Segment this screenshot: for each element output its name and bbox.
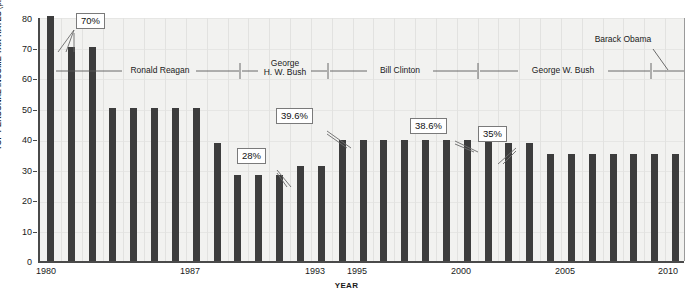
y-tick-label-50: 50 (10, 105, 32, 115)
figure: TOP PERSONAL INCOME TAX RATES (percent) … (0, 0, 693, 305)
bar-2003 (526, 143, 533, 261)
y-tick-mark-10 (33, 232, 37, 233)
x-tick-label-2005: 2005 (545, 266, 585, 276)
gridline-v-1985 (144, 18, 145, 261)
y-tick-mark-70 (33, 49, 37, 50)
x-tick-label-2010: 2010 (648, 266, 688, 276)
bar-1980 (47, 16, 54, 261)
callout-39-6-percent: 39.6% (276, 108, 313, 124)
gridline-v-1997 (394, 18, 395, 261)
gridline-v-1991 (269, 18, 270, 261)
president-label-obama: Barack Obama (583, 35, 663, 44)
y-axis-title-main: TOP PERSONAL INCOME TAX RATES (0, 11, 3, 150)
y-tick-mark-40 (33, 140, 37, 141)
bar-1985 (151, 108, 158, 261)
gridline-v-2004 (540, 18, 541, 261)
y-tick-mark-50 (33, 110, 37, 111)
gridline-h-80 (40, 18, 684, 19)
gridline-v-2008 (623, 18, 624, 261)
y-tick-label-30: 30 (10, 166, 32, 176)
gridline-v-1999 (436, 18, 437, 261)
x-tick-label-1993: 1993 (295, 266, 335, 276)
bar-1982 (89, 47, 96, 261)
gridline-v-2009 (644, 18, 645, 261)
y-tick-mark-60 (33, 79, 37, 80)
gridline-v-2000 (457, 18, 458, 261)
gridline-v-1989 (228, 18, 229, 261)
bar-2005 (568, 154, 575, 261)
bar-1989 (234, 175, 241, 261)
y-tick-label-70: 70 (10, 44, 32, 54)
bar-1999 (443, 140, 450, 261)
callout-35-percent: 35% (478, 126, 507, 142)
y-tick-label-80: 80 (10, 14, 32, 24)
bar-1993 (318, 166, 325, 261)
gridline-v-1981 (61, 18, 62, 261)
y-tick-label-10: 10 (10, 227, 32, 237)
x-tick-label-1987: 1987 (170, 266, 210, 276)
y-axis-title: TOP PERSONAL INCOME TAX RATES (percent) (0, 0, 3, 150)
gridline-v-1993 (311, 18, 312, 261)
president-label-clinton: Bill Clinton (369, 66, 431, 75)
bar-2008 (630, 154, 637, 261)
bar-1983 (109, 108, 116, 261)
y-tick-mark-30 (33, 171, 37, 172)
bar-1998 (422, 140, 429, 261)
plot-right-border (684, 18, 685, 261)
y-axis-title-unit: (percent) (0, 0, 2, 9)
gridline-v-1992 (290, 18, 291, 261)
gridline-v-2007 (603, 18, 604, 261)
bar-2010 (672, 154, 679, 261)
gridline-v-2006 (582, 18, 583, 261)
gridline-v-1987 (186, 18, 187, 261)
gridline-h-60 (40, 79, 684, 80)
x-tick-label-1995: 1995 (337, 266, 377, 276)
gridline-v-1994 (332, 18, 333, 261)
president-label-reagan: Ronald Reagan (124, 66, 196, 75)
gridline-v-1983 (103, 18, 104, 261)
bar-2002 (505, 143, 512, 261)
bar-1990 (255, 175, 262, 261)
gridline-v-2010 (665, 18, 666, 261)
gridline-v-2005 (561, 18, 562, 261)
gridline-v-1990 (248, 18, 249, 261)
plot-area (38, 18, 684, 263)
callout-38-6-percent: 38.6% (410, 118, 447, 134)
y-tick-label-40: 40 (10, 135, 32, 145)
x-tick-label-1980: 1980 (26, 266, 66, 276)
bar-2004 (547, 154, 554, 261)
president-label-ghw-bush-line2: H. W. Bush (264, 67, 307, 77)
bar-1996 (380, 140, 387, 261)
y-tick-label-20: 20 (10, 196, 32, 206)
gridline-h-70 (40, 49, 684, 50)
gridline-v-1984 (123, 18, 124, 261)
gridline-v-1998 (415, 18, 416, 261)
bar-1987 (193, 108, 200, 261)
x-axis-title: YEAR (0, 281, 693, 290)
gridline-v-1995 (353, 18, 354, 261)
gridline-v-2003 (519, 18, 520, 261)
bar-2007 (610, 154, 617, 261)
gridline-v-1982 (82, 18, 83, 261)
bar-2006 (589, 154, 596, 261)
gridline-v-1996 (373, 18, 374, 261)
bar-1995 (360, 140, 367, 261)
y-tick-mark-20 (33, 201, 37, 202)
bar-1988 (214, 143, 221, 261)
bar-1984 (130, 108, 137, 261)
gridline-v-1988 (207, 18, 208, 261)
callout-28-percent: 28% (237, 148, 266, 164)
bar-1997 (401, 140, 408, 261)
y-tick-label-60: 60 (10, 74, 32, 84)
bar-1981 (68, 47, 75, 261)
callout-70-percent: 70% (76, 13, 105, 29)
gridline-v-1986 (165, 18, 166, 261)
president-label-gw-bush: George W. Bush (520, 66, 606, 75)
bar-1992 (297, 166, 304, 261)
x-tick-label-2000: 2000 (441, 266, 481, 276)
bar-1994 (339, 140, 346, 261)
bar-1991 (276, 175, 283, 261)
president-label-ghw-bush: George H. W. Bush (258, 59, 312, 78)
bar-1986 (172, 108, 179, 261)
bar-2000 (464, 140, 471, 261)
